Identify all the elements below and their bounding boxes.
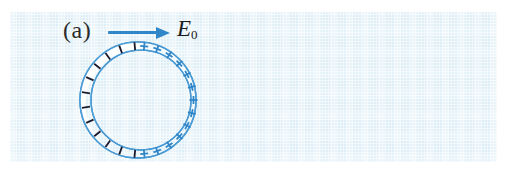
sphere-outer-circle-stroke [80, 42, 196, 158]
minus-charge-icon [105, 140, 111, 148]
sphere-inner-circle-stroke [91, 50, 191, 150]
negative-band-left [80, 42, 141, 158]
subfigure-a: (a) E0 [0, 0, 255, 176]
positive-band-right [138, 42, 196, 158]
minus-charge-icon [134, 150, 136, 158]
physics-figure: (a) E0 (b) E0 [0, 0, 509, 176]
minus-charge-icon [118, 147, 122, 155]
subfigure-b: (b) E0 [255, 0, 509, 176]
split-hemispheres-b [255, 0, 509, 176]
minus-charge-icon [94, 131, 101, 137]
sphere-ring-a [0, 0, 255, 176]
